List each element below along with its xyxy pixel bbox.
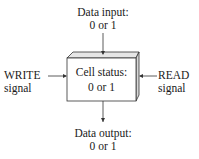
data-output-title: Data output: xyxy=(63,127,143,140)
read-signal-label: READ signal xyxy=(158,69,198,95)
cell-status-title: Cell status: xyxy=(67,66,136,79)
data-input-title: Data input: xyxy=(68,6,138,19)
cell-box-side xyxy=(136,52,139,101)
read-subtitle: signal xyxy=(158,82,198,95)
data-input-value: 0 or 1 xyxy=(68,19,138,32)
read-arrowhead-icon xyxy=(139,74,143,78)
data-input-label: Data input: 0 or 1 xyxy=(68,6,138,32)
cell-status-value: 0 or 1 xyxy=(67,81,136,94)
write-title: WRITE xyxy=(4,69,46,82)
read-title: READ xyxy=(158,69,198,82)
write-subtitle: signal xyxy=(4,82,46,95)
write-signal-label: WRITE signal xyxy=(4,69,46,95)
output-arrowhead-icon xyxy=(101,118,105,122)
data-output-label: Data output: 0 or 1 xyxy=(63,127,143,153)
data-output-value: 0 or 1 xyxy=(63,140,143,153)
cell-status-label: Cell status: 0 or 1 xyxy=(67,66,136,94)
